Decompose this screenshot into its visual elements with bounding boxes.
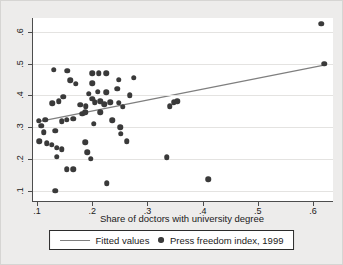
scatter-point — [175, 98, 181, 104]
scatter-point — [36, 139, 42, 145]
scatter-point — [124, 138, 130, 144]
y-tick-label: .5 — [15, 60, 25, 68]
scatter-point — [89, 70, 95, 76]
legend-box: Fitted values Press freedom index, 1999 — [49, 230, 295, 250]
scatter-point — [54, 154, 60, 160]
scatter-point — [108, 100, 114, 106]
scatter-point — [65, 68, 71, 74]
scatter-point — [41, 130, 47, 136]
scatter-point — [109, 118, 115, 124]
y-gridline — [33, 32, 333, 33]
scatter-point — [52, 188, 58, 194]
scatter-point — [91, 121, 97, 127]
y-tick-mark — [28, 95, 32, 96]
y-tick-mark — [28, 32, 32, 33]
scatter-point — [118, 131, 124, 137]
scatter-point — [104, 181, 110, 187]
scatter-point — [103, 89, 109, 95]
y-tick-label: .6 — [15, 28, 25, 36]
scatter-point — [61, 94, 67, 100]
scatter-point — [51, 67, 57, 73]
scatter-point — [89, 80, 95, 86]
x-axis-title: Share of doctors with university degree — [32, 213, 332, 224]
scatter-point — [64, 117, 70, 123]
scatter-point — [88, 156, 94, 162]
y-gridline — [33, 95, 333, 96]
scatter-point — [59, 147, 65, 153]
y-tick-label: .4 — [15, 92, 25, 100]
scatter-marker-swatch-icon — [158, 237, 164, 243]
scatter-point — [56, 99, 62, 105]
scatter-point — [319, 21, 325, 27]
scatter-point — [114, 86, 120, 92]
scatter-point — [127, 92, 133, 98]
scatter-point — [102, 101, 108, 107]
scatter-point — [98, 109, 104, 115]
scatter-point — [82, 109, 88, 115]
y-tick-mark — [28, 159, 32, 160]
chart-figure: .1.2.3.4.5.6.1.2.3.4.5.6 Share of doctor… — [0, 0, 343, 265]
scatter-point — [71, 116, 77, 122]
y-tick-mark — [28, 64, 32, 65]
scatter-point — [164, 155, 170, 161]
y-tick-label: .1 — [15, 187, 25, 195]
scatter-point — [84, 150, 90, 156]
legend-label-fitted-values: Fitted values — [96, 235, 150, 246]
y-gridline — [33, 159, 333, 160]
scatter-point — [95, 89, 101, 95]
legend-entry-fitted-values: Fitted values — [60, 235, 150, 246]
scatter-point — [131, 75, 137, 81]
y-gridline — [33, 191, 333, 192]
legend-entry-press-freedom: Press freedom index, 1999 — [158, 235, 283, 246]
scatter-point — [205, 176, 211, 182]
scatter-point — [64, 166, 70, 172]
scatter-point — [43, 117, 49, 123]
scatter-point — [103, 70, 109, 76]
y-gridline — [33, 127, 333, 128]
scatter-point — [120, 104, 126, 110]
scatter-point — [118, 124, 124, 130]
y-tick-mark — [28, 191, 32, 192]
scatter-point — [52, 128, 58, 134]
scatter-point — [73, 81, 79, 87]
scatter-point — [82, 139, 88, 145]
legend-label-press-freedom: Press freedom index, 1999 — [170, 235, 284, 246]
scatter-point — [96, 70, 102, 76]
scatter-point — [116, 77, 122, 83]
fitted-line — [33, 18, 333, 201]
fitted-line-swatch-icon — [60, 240, 90, 241]
y-tick-mark — [28, 127, 32, 128]
plot-area: .1.2.3.4.5.6.1.2.3.4.5.6 — [32, 18, 333, 202]
scatter-point — [83, 103, 89, 109]
scatter-point — [321, 61, 327, 67]
y-gridline — [33, 64, 333, 65]
y-tick-label: .2 — [15, 155, 25, 163]
scatter-point — [71, 166, 77, 172]
scatter-point — [50, 101, 56, 107]
y-tick-label: .3 — [15, 123, 25, 131]
scatter-point — [39, 123, 45, 129]
